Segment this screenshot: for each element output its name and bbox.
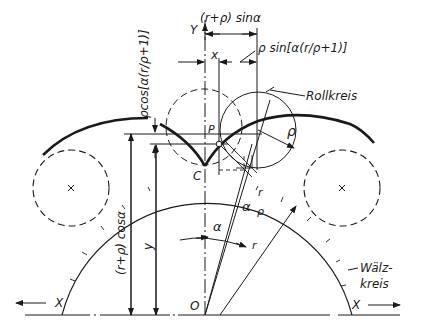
dim-y-label: y xyxy=(142,243,154,250)
cycloid-diagram: Y X X O C P (r+ρ) sinα x ρ sin[α(r/ρ+1)]… xyxy=(0,0,421,336)
dim-x-label: x xyxy=(211,49,218,61)
radius-r-arrow xyxy=(220,206,296,315)
alpha-r-rho-alpha: α xyxy=(242,200,251,213)
cycloid-left-outer xyxy=(43,118,148,155)
rho-label: ρ xyxy=(287,124,296,138)
alpha-arc xyxy=(180,238,244,246)
point-p-label: P xyxy=(208,124,215,135)
alpha-r-rho-denominator: ρ xyxy=(257,206,264,217)
rollkreis-label: Rollkreis xyxy=(306,90,357,102)
leader-waelzkreis xyxy=(348,268,358,270)
leader-rho-sin xyxy=(240,51,255,62)
x-left-label: X xyxy=(55,297,63,309)
cycloid-left-inner xyxy=(160,124,205,166)
waelzkreis-label-2: kreis xyxy=(360,278,389,290)
point-p-marker xyxy=(216,141,222,147)
left-center-cross-icon xyxy=(68,185,74,191)
dim-top-label: (r+ρ) sinα xyxy=(200,12,261,24)
alpha-label: α xyxy=(213,220,222,233)
waelzkreis-label-1: Wälz- xyxy=(360,262,393,274)
radius-r-label: r xyxy=(252,240,257,251)
dim-r-rho-cos-label: (r+ρ) cosα xyxy=(115,211,127,275)
dim-rho-sin-label: ρ sin[α(r/ρ+1)] xyxy=(258,42,348,54)
point-c-label: C xyxy=(193,170,201,182)
waelzkreis-arc xyxy=(62,203,352,315)
center-dashed-circle xyxy=(166,89,242,165)
origin-label: O xyxy=(190,300,199,312)
y-axis-label: Y xyxy=(190,24,197,36)
x-right-label: X xyxy=(352,299,360,311)
dim-rho-cos-label: ρcos[α(r/ρ+1)] xyxy=(138,29,150,118)
alpha-r-rho-numerator: r xyxy=(258,187,263,198)
leader-rollkreis xyxy=(266,87,274,92)
pitch-circle-ticks xyxy=(70,186,346,286)
right-center-cross-icon xyxy=(339,185,345,191)
